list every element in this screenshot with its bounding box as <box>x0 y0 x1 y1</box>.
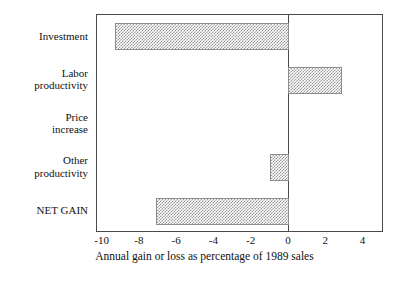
category-label-line: Investment <box>0 30 88 43</box>
plot-area <box>96 14 383 232</box>
x-tick-label: 4 <box>348 234 378 247</box>
bar-chart: InvestmentLaborproductivityPriceincrease… <box>0 0 409 285</box>
x-tick-label: -2 <box>236 234 266 247</box>
x-tick-label: -6 <box>161 234 191 247</box>
category-label: Priceincrease <box>0 111 88 136</box>
x-tick-label: 0 <box>273 234 303 247</box>
category-label: Laborproductivity <box>0 67 88 92</box>
category-label: Investment <box>0 30 88 43</box>
category-label-line: Price <box>0 111 88 124</box>
x-tick-label: -8 <box>124 234 154 247</box>
x-tick-label: -10 <box>87 234 117 247</box>
x-tick-label: 2 <box>310 234 340 247</box>
bar <box>156 198 289 225</box>
category-label-line: Labor <box>0 67 88 80</box>
bar <box>270 154 289 181</box>
category-label-line: productivity <box>0 79 88 92</box>
category-label-line: productivity <box>0 167 88 180</box>
category-label-line: increase <box>0 123 88 136</box>
category-label: NET GAIN <box>0 204 88 217</box>
category-label-line: Other <box>0 154 88 167</box>
category-label-line: NET GAIN <box>0 204 88 217</box>
bar <box>288 67 342 94</box>
category-label: Otherproductivity <box>0 154 88 179</box>
x-axis-title: Annual gain or loss as percentage of 198… <box>0 250 409 262</box>
bar <box>115 23 289 50</box>
x-tick-label: -4 <box>198 234 228 247</box>
